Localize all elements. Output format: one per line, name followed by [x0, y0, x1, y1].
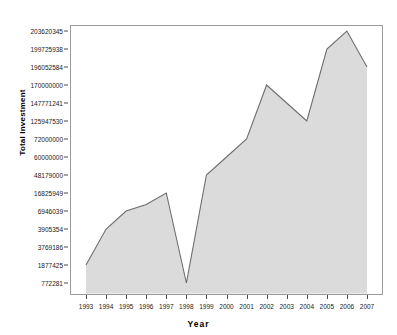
area-chart: Total Investment Year 203620345199725938…: [0, 0, 397, 335]
plot-area: [0, 0, 397, 335]
